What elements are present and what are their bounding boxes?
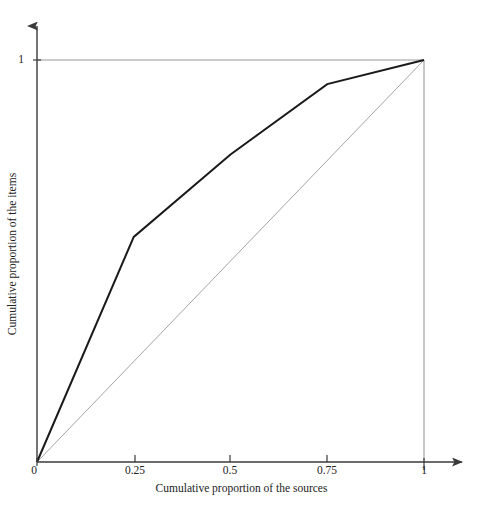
chart-canvas: [0, 0, 483, 507]
y-axis-title: Cumulative proportion of the items: [7, 172, 19, 334]
y-axis: [33, 26, 41, 462]
lorenz-curve-figure: 1 0 0.25 0.5 0.75 1 Cumulative proportio…: [0, 0, 483, 507]
x-tick-label-05: 0.5: [207, 465, 253, 477]
x-tick-label-025: 0.25: [110, 465, 160, 477]
x-tick-label-075: 0.75: [302, 465, 352, 477]
x-tick-label-1: 1: [417, 465, 431, 477]
equality-diagonal-line: [37, 60, 424, 462]
y-axis-title-container: Cumulative proportion of the items: [0, 0, 26, 507]
x-axis-title: Cumulative proportion of the sources: [0, 483, 483, 495]
y-tick-label-0: 0: [27, 465, 41, 477]
